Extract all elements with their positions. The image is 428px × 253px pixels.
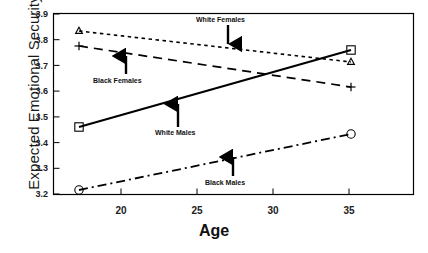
marker-plus-left xyxy=(75,42,84,50)
series-white-males xyxy=(75,46,355,131)
series-black-females xyxy=(75,42,356,91)
series-white-females xyxy=(76,27,355,64)
marker-triangle-left xyxy=(76,27,83,33)
chart-figure: Expected Emotional Security Age 3.9 3.8 … xyxy=(0,0,428,253)
annotation-arrows xyxy=(126,25,233,176)
chart-canvas xyxy=(0,0,428,253)
x-tick-marks xyxy=(121,189,349,195)
series-black-males xyxy=(75,130,355,194)
y-tick-marks xyxy=(54,14,60,194)
marker-plus-right xyxy=(347,83,356,91)
